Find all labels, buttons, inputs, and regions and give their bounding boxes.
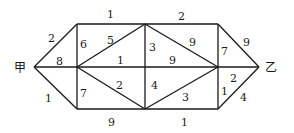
weight-start-topleft: 2 — [48, 32, 55, 45]
weight-midright-bottomright: 1 — [221, 85, 228, 98]
weight-bottommid-midright: 3 — [182, 91, 189, 104]
weight-start-bottomleft: 1 — [45, 92, 52, 105]
end-node-label: 乙 — [265, 61, 277, 75]
weight-topright-end: 9 — [243, 36, 250, 49]
start-node-label: 甲 — [14, 61, 26, 75]
weight-midmid-midright: 9 — [169, 54, 176, 67]
weight-midleft-midmid: 1 — [117, 54, 124, 67]
weight-topleft-topmid: 1 — [107, 8, 114, 21]
weighted-graph-diagram: 甲 乙 2 8 1 6 7 1 5 1 2 9 3 4 2 9 9 3 1 7 … — [0, 0, 294, 133]
edge-midleft-bottommid — [77, 67, 145, 109]
weight-bottomright-end: 4 — [240, 91, 247, 104]
weight-midleft-bottomleft: 7 — [80, 87, 87, 100]
weight-topleft-midleft: 6 — [80, 38, 87, 51]
weight-topmid-topright: 2 — [178, 10, 185, 23]
weight-midleft-bottommid: 2 — [116, 79, 123, 92]
weight-topright-midright: 7 — [221, 45, 228, 58]
weight-topmid-midright: 9 — [189, 36, 196, 49]
weight-bottomleft-bottommid: 9 — [108, 116, 115, 129]
weight-start-midleft: 8 — [56, 55, 63, 68]
weight-bottommid-bottomright: 1 — [181, 116, 188, 129]
weight-topmid-midmid: 3 — [149, 41, 156, 54]
weight-midright-end: 2 — [230, 72, 237, 85]
edge-start-bottomleft — [34, 67, 77, 109]
weight-midmid-bottommid: 4 — [151, 79, 158, 92]
weight-midleft-topmid: 5 — [107, 34, 114, 47]
